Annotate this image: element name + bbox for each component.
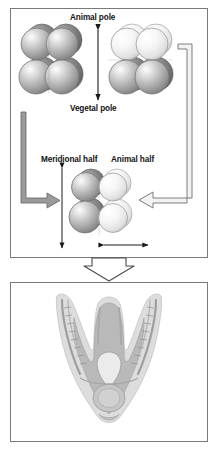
label-meridional-half: Meridional half [41, 155, 97, 164]
figure-container: Animal pole Vegetal pole Meridional half… [0, 0, 218, 455]
larva-micrograph-panel [10, 282, 208, 442]
blastomere-separation-panel [10, 8, 208, 258]
label-animal-half: Animal half [111, 155, 154, 164]
label-animal-pole: Animal pole [70, 13, 115, 22]
label-vegetal-pole: Vegetal pole [70, 104, 117, 113]
panel-connector-chevron [84, 258, 134, 281]
